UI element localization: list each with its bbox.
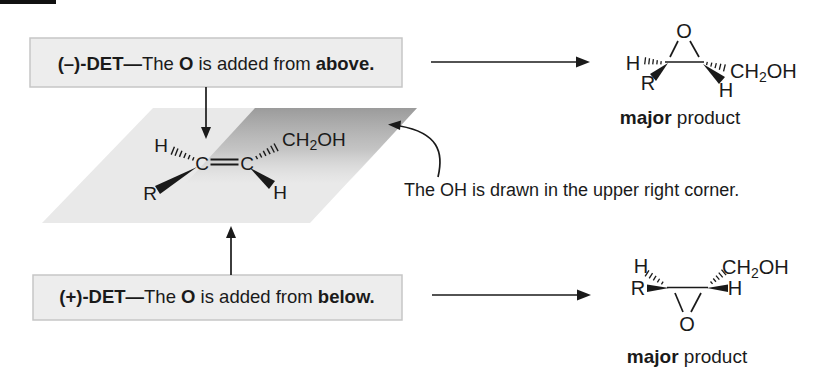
epoxide-product-bottom: H R CH2OH H O major product (627, 255, 789, 367)
diagram-canvas: (–)-DET—The O is added from above. (+)-D… (0, 0, 826, 387)
alkene-c-right: C (240, 153, 254, 174)
epoxide-product-top: O H R CH2OH H major product (620, 20, 797, 128)
alkene-c-left: C (195, 153, 209, 174)
det-minus-box: (–)-DET—The O is added from above. (30, 38, 402, 87)
attack-from-below-arrow (226, 226, 236, 275)
h-left: H (626, 52, 640, 74)
det-minus-name: (–)-DET— (58, 53, 143, 74)
alkene-h-bottom: H (273, 182, 287, 203)
r-group: R (641, 72, 655, 94)
reaction-arrow-bottom (432, 290, 591, 301)
hash-wedge-h-left (645, 57, 662, 66)
h-right: H (728, 277, 742, 299)
det-minus-box-text: (–)-DET—The O is added from above. (58, 53, 375, 74)
epoxide-o: O (679, 313, 695, 335)
det-plus-box-text: (+)-DET—The O is added from below. (59, 286, 374, 307)
h-left: H (634, 255, 648, 277)
reaction-arrow-top (431, 57, 590, 68)
annotation-text: The OH is drawn in the upper right corne… (404, 180, 739, 200)
bold-wedge-r (647, 285, 669, 293)
ch2oh-label: CH2OH (730, 60, 797, 85)
alkene-r-group: R (143, 183, 157, 204)
epoxide-o: O (676, 20, 692, 42)
bold-wedge-h (707, 285, 728, 293)
r-group: R (631, 277, 645, 299)
det-plus-name: (+)-DET— (59, 286, 144, 307)
h-right: H (719, 79, 733, 101)
major-product-caption: major product (620, 107, 741, 128)
alkene-h-top: H (154, 135, 168, 156)
page-edge-artifact (0, 0, 56, 4)
major-product-caption: major product (627, 346, 748, 367)
det-plus-box: (+)-DET—The O is added from below. (33, 275, 402, 320)
